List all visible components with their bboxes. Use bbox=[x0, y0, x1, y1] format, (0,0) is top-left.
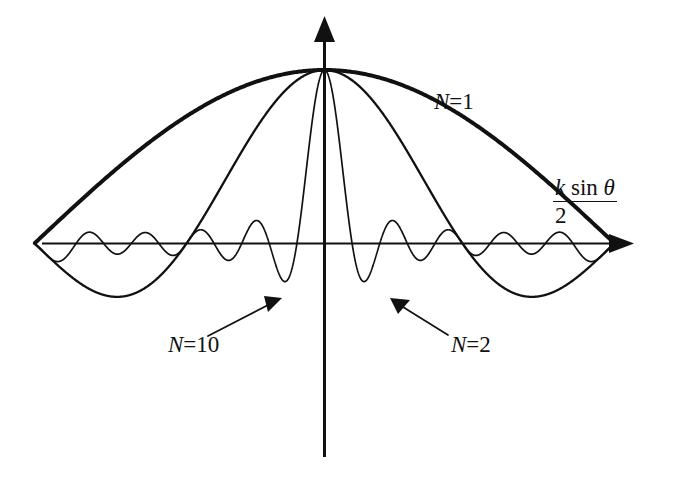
leader-n10 bbox=[208, 296, 282, 336]
label-n10: N=10 bbox=[168, 332, 219, 358]
label-n10-num: 10 bbox=[196, 332, 219, 357]
x-axis-label-numerator: k sin θ bbox=[553, 176, 617, 202]
leader-arrowhead-n2 bbox=[390, 298, 410, 314]
leader-n2 bbox=[390, 298, 448, 335]
label-n2: N=2 bbox=[451, 332, 491, 358]
x-axis-label-denominator: 2 bbox=[553, 202, 617, 227]
leader-arrowhead-n10 bbox=[264, 296, 282, 312]
label-n10-var: N bbox=[168, 332, 183, 357]
x-axis-label-theta: θ bbox=[604, 175, 615, 200]
label-n1-num: 1 bbox=[462, 89, 474, 114]
label-n2-num: 2 bbox=[479, 332, 491, 357]
array-factor-plot bbox=[0, 0, 691, 492]
leader-line-n2 bbox=[403, 307, 448, 335]
x-axis-label-sin-word: sin bbox=[571, 175, 598, 200]
label-n1: N=1 bbox=[434, 89, 474, 115]
label-n1-var: N bbox=[434, 89, 449, 114]
label-n1-eq: = bbox=[449, 89, 462, 114]
x-axis-label: k sin θ 2 bbox=[553, 176, 617, 227]
figure-canvas: N=1 N=10 N=2 k sin θ 2 bbox=[0, 0, 691, 492]
x-axis-label-k: k bbox=[555, 175, 565, 200]
label-n10-eq: = bbox=[183, 332, 196, 357]
label-n2-eq: = bbox=[466, 332, 479, 357]
y-axis-arrowhead bbox=[314, 16, 335, 42]
y-axis bbox=[314, 16, 335, 457]
label-n2-var: N bbox=[451, 332, 466, 357]
